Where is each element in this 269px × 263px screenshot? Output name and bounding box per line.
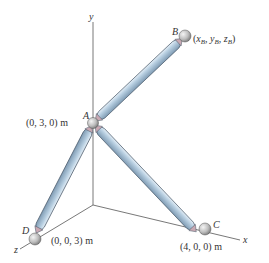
point-c-coords: (4, 0, 0) m xyxy=(180,242,222,252)
strut-diagram: y x z B (xB, yB, zB) A (0, 3, 0) m D (0,… xyxy=(0,0,269,263)
point-b-label: B xyxy=(172,27,178,37)
rod-ad xyxy=(32,124,95,236)
axes xyxy=(20,22,240,249)
joint-c-ball xyxy=(199,223,211,235)
point-c-label: C xyxy=(213,220,220,230)
subscript-b: B xyxy=(215,38,219,46)
joint-b-ball xyxy=(179,30,191,42)
point-b-coords: (xB, yB, zB) xyxy=(193,34,235,46)
point-d-label: D xyxy=(22,226,29,236)
point-d-coords: (0, 0, 3) m xyxy=(51,236,93,246)
z-axis-label: z xyxy=(14,245,18,255)
y-axis-label: y xyxy=(89,12,93,22)
point-a-coords: (0, 3, 0) m xyxy=(26,118,68,128)
point-a-label: A xyxy=(83,111,89,121)
rod-ac xyxy=(92,122,200,235)
coords-close-paren: ) xyxy=(232,33,235,44)
x-axis-label: x xyxy=(243,235,247,245)
joint-a-ball xyxy=(88,118,99,129)
rod-ab xyxy=(92,35,185,124)
joint-d-ball xyxy=(29,233,41,245)
subscript-b: B xyxy=(201,38,205,46)
